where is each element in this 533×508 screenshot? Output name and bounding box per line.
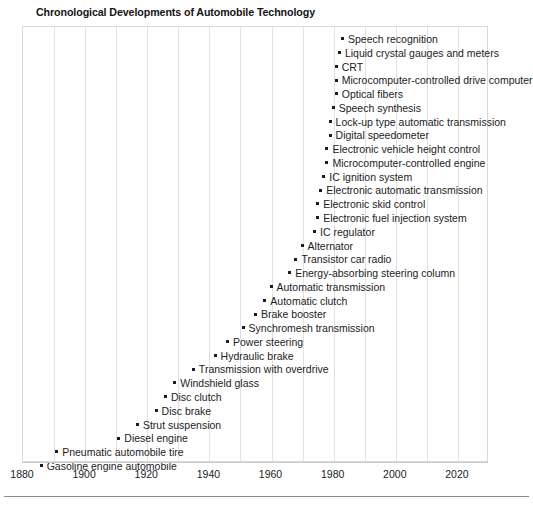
event-label: Windshield glass bbox=[180, 377, 259, 389]
gridline bbox=[458, 27, 459, 461]
event-marker-icon bbox=[335, 65, 338, 68]
event-marker-icon bbox=[270, 285, 273, 288]
x-tick-label: 1900 bbox=[72, 468, 95, 480]
timeline-event[interactable]: Electronic automatic transmission bbox=[319, 182, 482, 196]
gridline bbox=[116, 27, 117, 461]
event-marker-icon bbox=[325, 147, 328, 150]
timeline-event[interactable]: Disc brake bbox=[155, 403, 212, 417]
timeline-event[interactable]: Microcomputer-controlled engine bbox=[325, 155, 485, 169]
event-marker-icon bbox=[341, 37, 344, 40]
event-label: CRT bbox=[342, 61, 363, 73]
timeline-event[interactable]: Liquid crystal gauges and meters bbox=[338, 45, 499, 59]
event-marker-icon bbox=[192, 368, 195, 371]
event-marker-icon bbox=[214, 354, 217, 357]
timeline-event[interactable]: Transmission with overdrive bbox=[192, 361, 329, 375]
gridline bbox=[85, 27, 86, 461]
event-marker-icon bbox=[325, 161, 328, 164]
event-label: Speech recognition bbox=[348, 33, 438, 45]
timeline-event[interactable]: Strut suspension bbox=[136, 417, 221, 431]
timeline-event[interactable]: Diesel engine bbox=[117, 430, 188, 444]
timeline-event[interactable]: Energy-absorbing steering column bbox=[288, 265, 455, 279]
event-label: Automatic clutch bbox=[270, 295, 347, 307]
event-label: Power steering bbox=[233, 336, 303, 348]
timeline-event[interactable]: Transistor car radio bbox=[294, 251, 391, 265]
event-label: Electronic skid control bbox=[323, 198, 425, 210]
event-label: IC regulator bbox=[320, 226, 375, 238]
event-label: Hydraulic brake bbox=[221, 350, 294, 362]
x-tick-label: 2000 bbox=[383, 468, 406, 480]
x-tick-label: 1940 bbox=[197, 468, 220, 480]
event-label: Electronic fuel injection system bbox=[323, 212, 467, 224]
gridline bbox=[240, 27, 241, 461]
timeline-event[interactable]: Windshield glass bbox=[173, 375, 259, 389]
event-label: Alternator bbox=[308, 240, 354, 252]
timeline-event[interactable]: Hydraulic brake bbox=[214, 348, 294, 362]
x-tick-label: 1980 bbox=[321, 468, 344, 480]
event-marker-icon bbox=[332, 106, 335, 109]
timeline-event[interactable]: Microcomputer-controlled drive computer bbox=[335, 72, 533, 86]
x-tick-label: 2020 bbox=[445, 468, 468, 480]
timeline-event[interactable]: Digital speedometer bbox=[329, 127, 429, 141]
event-label: Energy-absorbing steering column bbox=[295, 267, 455, 279]
timeline-event[interactable]: Speech recognition bbox=[341, 31, 438, 45]
plot-area bbox=[22, 26, 488, 462]
timeline-event[interactable]: CRT bbox=[335, 59, 363, 73]
event-marker-icon bbox=[301, 244, 304, 247]
timeline-event[interactable]: Automatic transmission bbox=[270, 279, 386, 293]
timeline-event[interactable]: Speech synthesis bbox=[332, 100, 421, 114]
event-marker-icon bbox=[329, 120, 332, 123]
event-marker-icon bbox=[164, 395, 167, 398]
timeline-event[interactable]: Electronic fuel injection system bbox=[316, 210, 467, 224]
event-marker-icon bbox=[319, 189, 322, 192]
event-marker-icon bbox=[335, 92, 338, 95]
event-marker-icon bbox=[288, 271, 291, 274]
event-marker-icon bbox=[117, 437, 120, 440]
timeline-event[interactable]: Optical fibers bbox=[335, 86, 403, 100]
event-marker-icon bbox=[136, 423, 139, 426]
event-marker-icon bbox=[338, 51, 341, 54]
timeline-event[interactable]: IC ignition system bbox=[322, 169, 412, 183]
event-marker-icon bbox=[335, 79, 338, 82]
event-label: Strut suspension bbox=[143, 419, 221, 431]
event-marker-icon bbox=[155, 409, 158, 412]
page-title: Chronological Developments of Automobile… bbox=[36, 6, 315, 18]
timeline-event[interactable]: Automatic clutch bbox=[263, 293, 347, 307]
event-label: Diesel engine bbox=[124, 433, 188, 445]
event-marker-icon bbox=[263, 299, 266, 302]
timeline-event[interactable]: Disc clutch bbox=[164, 389, 222, 403]
event-label: Electronic vehicle height control bbox=[332, 143, 480, 155]
event-label: Liquid crystal gauges and meters bbox=[345, 47, 499, 59]
event-label: Brake booster bbox=[261, 309, 326, 321]
event-marker-icon bbox=[316, 202, 319, 205]
event-marker-icon bbox=[322, 175, 325, 178]
event-marker-icon bbox=[329, 134, 332, 137]
event-marker-icon bbox=[226, 340, 229, 343]
event-label: Disc brake bbox=[162, 405, 212, 417]
event-label: Automatic transmission bbox=[277, 281, 386, 293]
gridline bbox=[427, 27, 428, 461]
x-axis-line bbox=[22, 462, 488, 463]
event-marker-icon bbox=[316, 216, 319, 219]
event-marker-icon bbox=[55, 450, 58, 453]
event-label: Microcomputer-controlled drive computer bbox=[342, 75, 533, 87]
event-label: Speech synthesis bbox=[339, 102, 421, 114]
timeline-event[interactable]: Electronic vehicle height control bbox=[325, 141, 480, 155]
event-label: Microcomputer-controlled engine bbox=[332, 157, 485, 169]
timeline-event[interactable]: Alternator bbox=[301, 238, 354, 252]
event-label: Electronic automatic transmission bbox=[326, 185, 482, 197]
event-marker-icon bbox=[254, 313, 257, 316]
timeline-event[interactable]: Lock-up type automatic transmission bbox=[329, 114, 506, 128]
timeline-event[interactable]: Electronic skid control bbox=[316, 196, 425, 210]
gridline bbox=[147, 27, 148, 461]
timeline-event[interactable]: Brake booster bbox=[254, 306, 326, 320]
timeline-event[interactable]: IC regulator bbox=[313, 224, 375, 238]
event-label: Transmission with overdrive bbox=[199, 364, 329, 376]
x-tick-label: 1920 bbox=[135, 468, 158, 480]
timeline-event[interactable]: Power steering bbox=[226, 334, 303, 348]
footer-divider bbox=[4, 496, 529, 497]
timeline-event[interactable]: Synchromesh transmission bbox=[242, 320, 375, 334]
timeline-event[interactable]: Pneumatic automobile tire bbox=[55, 444, 183, 458]
event-label: Digital speedometer bbox=[336, 130, 429, 142]
event-label: IC ignition system bbox=[329, 171, 412, 183]
event-label: Transistor car radio bbox=[301, 254, 391, 266]
